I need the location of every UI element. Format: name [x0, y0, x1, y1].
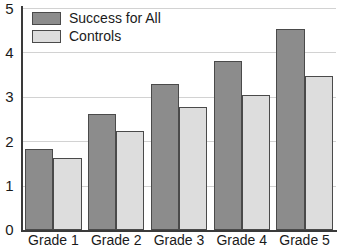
chart-legend: Success for All Controls — [32, 10, 161, 46]
y-tick-label-0: 0 — [2, 222, 17, 237]
x-tick-label-grade-1: Grade 1 — [22, 232, 85, 248]
y-tick-label-2: 2 — [2, 134, 17, 149]
bar-grade-3-success-for-all — [151, 84, 179, 230]
bar-grade-1-controls — [53, 158, 81, 230]
y-tick-label-1: 1 — [2, 178, 17, 193]
x-tick-label-grade-4: Grade 4 — [210, 232, 273, 248]
y-tick-label-4: 4 — [2, 45, 17, 60]
legend-label-success-for-all: Success for All — [69, 11, 161, 25]
x-tick-label-grade-3: Grade 3 — [148, 232, 211, 248]
y-tick-label-5: 5 — [2, 1, 17, 16]
bar-grade-2-controls — [116, 131, 144, 230]
dark-gray-swatch-icon — [32, 12, 61, 25]
light-gray-swatch-icon — [32, 30, 61, 43]
bar-chart: 5 4 3 2 1 0 Grade 1Grade 2Grade 3Grade 4… — [0, 0, 341, 248]
bar-grade-5-success-for-all — [276, 29, 304, 230]
bar-grade-5-controls — [305, 76, 333, 231]
bar-grade-4-controls — [242, 95, 270, 230]
legend-label-controls: Controls — [69, 29, 121, 43]
bar-grade-4-success-for-all — [214, 61, 242, 230]
x-axis-labels: Grade 1Grade 2Grade 3Grade 4Grade 5 — [22, 232, 336, 248]
y-tick-label-3: 3 — [2, 89, 17, 104]
x-tick-label-grade-5: Grade 5 — [273, 232, 336, 248]
x-tick-label-grade-2: Grade 2 — [85, 232, 148, 248]
bar-grade-1-success-for-all — [25, 149, 53, 230]
bar-grade-2-success-for-all — [88, 114, 116, 230]
bar-grade-3-controls — [179, 107, 207, 230]
legend-item-controls: Controls — [32, 28, 161, 44]
legend-item-success-for-all: Success for All — [32, 10, 161, 26]
